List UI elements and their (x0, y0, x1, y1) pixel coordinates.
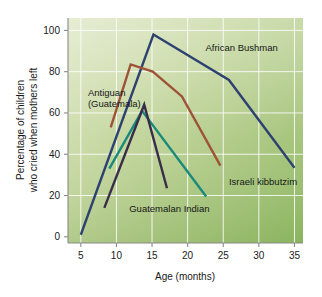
line-chart-figure: 020406080100 5101520253035 African Bushm… (0, 0, 322, 297)
x-tick-label: 15 (146, 250, 158, 261)
y-axis-tick-labels: 020406080100 (43, 25, 60, 242)
x-tick-label: 5 (78, 250, 84, 261)
x-tick-label: 35 (289, 250, 301, 261)
series-label-guatemalan-indian: Guatemalan Indian (129, 203, 209, 214)
y-tick-label: 0 (54, 231, 60, 242)
x-axis-title: Age (months) (155, 271, 215, 282)
svg-text:who cried when mothers left: who cried when mothers left (28, 68, 39, 194)
y-tick-label: 80 (49, 66, 61, 77)
series-label-african-bushman: African Bushman (205, 42, 277, 53)
chart-container: 020406080100 5101520253035 African Bushm… (0, 0, 322, 297)
x-axis-tick-labels: 5101520253035 (78, 250, 300, 261)
x-tick-label: 20 (182, 250, 194, 261)
y-tick-label: 40 (49, 149, 61, 160)
series-label-israeli-kibbutzim: Israeli kibbutzim (229, 176, 297, 187)
x-tick-label: 10 (111, 250, 123, 261)
x-tick-label: 30 (253, 250, 265, 261)
x-tick-label: 25 (218, 250, 230, 261)
series-label-antiguan-guatemala-line2: (Guatemala) (88, 98, 141, 109)
y-axis-title: Percentage of children who cried when mo… (15, 68, 39, 194)
y-tick-label: 100 (43, 25, 60, 36)
y-tick-label: 20 (49, 190, 61, 201)
y-tick-label: 60 (49, 107, 61, 118)
svg-text:Percentage of children: Percentage of children (15, 80, 26, 180)
series-label-antiguan-guatemala: Antiguan (88, 87, 126, 98)
